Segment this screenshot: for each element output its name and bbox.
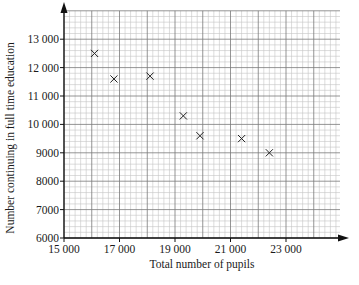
y-tick-label: 13 000 — [27, 33, 59, 45]
x-tick-label: 21 000 — [215, 243, 247, 255]
y-tick-label: 6000 — [36, 232, 59, 244]
y-tick-label: 11 000 — [28, 90, 59, 102]
x-tick-label: 15 000 — [48, 243, 80, 255]
y-tick-label: 7000 — [36, 204, 59, 216]
y-axis-ticks: 600070008000900010 00011 00012 00013 000 — [27, 33, 64, 244]
x-axis-ticks: 15 00017 00019 00021 00023 000 — [48, 238, 302, 255]
x-axis-arrow-icon — [338, 235, 349, 242]
axes — [61, 2, 350, 242]
x-axis-title: Total number of pupils — [150, 258, 255, 271]
x-tick-label: 23 000 — [270, 243, 302, 255]
y-tick-label: 12 000 — [27, 62, 59, 74]
y-tick-label: 10 000 — [27, 118, 59, 130]
y-tick-label: 9000 — [36, 147, 59, 159]
x-tick-label: 17 000 — [104, 243, 136, 255]
scatter-chart: 15 00017 00019 00021 00023 000 600070008… — [0, 0, 359, 285]
y-axis-title: Number continuing in full time education — [4, 42, 17, 234]
y-axis-arrow-icon — [61, 2, 68, 13]
x-tick-label: 19 000 — [159, 243, 191, 255]
y-tick-label: 8000 — [36, 175, 59, 187]
data-points — [91, 50, 273, 157]
